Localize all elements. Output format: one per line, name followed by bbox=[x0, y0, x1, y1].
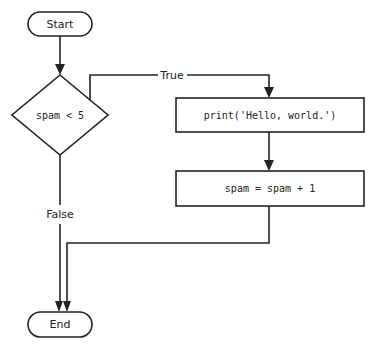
print-label: print('Hello, world.') bbox=[204, 110, 336, 121]
edge-true-branch: True bbox=[90, 69, 274, 100]
end-node: End bbox=[28, 312, 92, 337]
edge-false-branch: False bbox=[46, 155, 74, 312]
edge-print-to-increment bbox=[264, 132, 274, 171]
false-label: False bbox=[46, 208, 74, 221]
condition-node: spam < 5 bbox=[12, 75, 108, 155]
print-node: print('Hello, world.') bbox=[176, 98, 364, 132]
end-label: End bbox=[50, 318, 71, 331]
start-label: Start bbox=[47, 18, 75, 31]
arrow-down-icon bbox=[55, 64, 65, 75]
edge-increment-to-end bbox=[63, 206, 269, 312]
increment-label: spam = spam + 1 bbox=[225, 183, 315, 194]
arrow-down-icon bbox=[264, 87, 274, 98]
arrow-down-icon bbox=[55, 301, 63, 312]
increment-node: spam = spam + 1 bbox=[176, 171, 364, 206]
start-node: Start bbox=[28, 12, 92, 36]
edge-start-to-condition bbox=[55, 36, 65, 75]
arrow-down-icon bbox=[264, 160, 274, 171]
flowchart-canvas: Start spam < 5 True print('Hello, world.… bbox=[0, 0, 375, 350]
arrow-down-icon bbox=[63, 301, 71, 312]
true-label: True bbox=[159, 69, 184, 82]
condition-label: spam < 5 bbox=[36, 110, 84, 121]
